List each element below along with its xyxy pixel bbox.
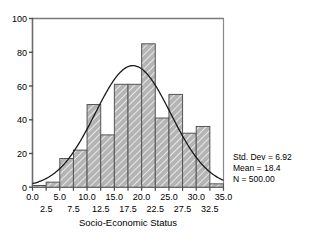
stats-annotation-box: Std. Dev = 6.92 Mean = 18.4 N = 500.00 (233, 152, 292, 184)
x-tick-label-lower: 22.5 (147, 204, 165, 214)
histogram-bar (210, 184, 224, 187)
x-tick-label-lower: 2.5 (40, 204, 53, 214)
histogram-bar (128, 84, 142, 187)
histogram-chart: 100 80 60 40 20 0 0.05.010.015.020.025.0… (0, 0, 313, 242)
chart-canvas: 100 80 60 40 20 0 0.05.010.015.020.025.0… (0, 0, 313, 242)
x-tick-label-lower: 7.5 (67, 204, 80, 214)
x-tick-label-upper: 25.0 (160, 192, 178, 202)
x-tick-label-upper: 35.0 (215, 192, 233, 202)
x-tick-label-lower: 17.5 (119, 204, 137, 214)
histogram-bar (73, 150, 87, 187)
x-axis-tick-labels-lower: 2.57.512.517.522.527.532.5 (40, 204, 219, 214)
y-tick-label: 40 (17, 115, 27, 125)
x-tick-label-lower: 12.5 (92, 204, 110, 214)
histogram-bar (101, 135, 115, 187)
std-dev-annotation: Std. Dev = 6.92 (233, 152, 292, 162)
x-tick-label-upper: 0.0 (26, 192, 39, 202)
y-tick-label: 100 (12, 14, 27, 24)
y-tick-label: 80 (17, 48, 27, 58)
x-tick-label-upper: 5.0 (54, 192, 67, 202)
histogram-bar (114, 84, 128, 187)
x-axis-title: Socio-Economic Status (79, 217, 177, 228)
y-axis-tick-labels: 100 80 60 40 20 0 (12, 14, 27, 193)
histogram-bar (60, 159, 74, 188)
mean-annotation: Mean = 18.4 (233, 163, 281, 173)
histogram-bar (33, 186, 47, 188)
y-tick-label: 20 (17, 149, 27, 159)
x-axis-tick-labels-upper: 0.05.010.015.020.025.030.035.0 (26, 192, 232, 202)
histogram-bar (196, 126, 210, 187)
y-tick-label: 60 (17, 82, 27, 92)
histogram-bar (169, 94, 183, 187)
x-tick-label-upper: 30.0 (187, 192, 205, 202)
histogram-bar (155, 118, 169, 187)
n-annotation: N = 500.00 (233, 174, 275, 184)
histogram-bars (33, 44, 224, 187)
x-tick-label-lower: 27.5 (174, 204, 192, 214)
histogram-bar (46, 182, 60, 187)
x-tick-label-upper: 20.0 (133, 192, 151, 202)
x-tick-label-upper: 10.0 (78, 192, 96, 202)
histogram-bar (183, 133, 197, 187)
x-tick-label-lower: 32.5 (201, 204, 219, 214)
x-tick-label-upper: 15.0 (106, 192, 124, 202)
histogram-bar (142, 44, 156, 187)
